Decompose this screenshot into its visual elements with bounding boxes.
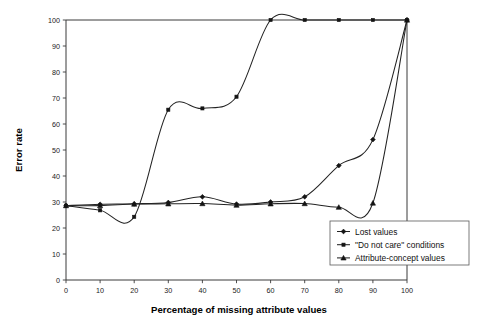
legend-item-label: Lost values: [355, 227, 397, 237]
marker-diamond: [371, 137, 376, 142]
x-tick-label: 70: [301, 286, 309, 295]
line-chart: 0102030405060708090100 01020304050607080…: [0, 0, 479, 325]
data-series-group: [63, 14, 409, 223]
y-tick-label: 0: [56, 276, 60, 285]
marker-square: [235, 95, 238, 98]
y-tick-label: 10: [52, 250, 60, 259]
x-tick-label: 30: [164, 286, 172, 295]
y-tick-label: 30: [52, 198, 60, 207]
series-0: [64, 18, 410, 208]
series-line: [66, 20, 407, 218]
chart-legend[interactable]: Lost values"Do not care" conditionsAttri…: [330, 221, 469, 265]
x-tick-label: 80: [335, 286, 343, 295]
series-line: [66, 20, 407, 206]
x-tick-label: 90: [369, 286, 377, 295]
y-tick-label: 60: [52, 120, 60, 129]
y-tick-label: 40: [52, 172, 60, 181]
marker-diamond: [200, 194, 205, 199]
x-tick-label: 60: [267, 286, 275, 295]
marker-square: [269, 18, 272, 21]
y-tick-label: 50: [52, 146, 60, 155]
series-line: [66, 14, 407, 223]
marker-square: [201, 107, 204, 110]
marker-square: [371, 18, 374, 21]
chart-container: 0102030405060708090100 01020304050607080…: [0, 0, 479, 325]
y-tick-label: 20: [52, 224, 60, 233]
marker-square: [133, 215, 136, 218]
x-tick-label: 10: [96, 286, 104, 295]
x-tick-label: 100: [401, 286, 413, 295]
x-tick-label: 50: [233, 286, 241, 295]
marker-diamond: [302, 194, 307, 199]
marker-square: [337, 18, 340, 21]
marker-square: [167, 108, 170, 111]
marker-square: [303, 18, 306, 21]
y-axis-tick-labels: 0102030405060708090100: [48, 16, 60, 285]
y-axis-title: Error rate: [13, 128, 24, 172]
x-tick-label: 40: [198, 286, 206, 295]
marker-square: [342, 243, 345, 246]
y-tick-label: 70: [52, 94, 60, 103]
legend-item-label: Attribute-concept values: [355, 253, 445, 263]
marker-square: [99, 209, 102, 212]
x-tick-label: 20: [130, 286, 138, 295]
x-tick-label: 0: [64, 286, 68, 295]
y-tick-label: 100: [48, 16, 60, 25]
legend-item-label: "Do not care" conditions: [355, 240, 444, 250]
marker-triangle: [370, 201, 375, 206]
y-tick-label: 90: [52, 42, 60, 51]
series-2: [63, 18, 409, 219]
y-tick-label: 80: [52, 68, 60, 77]
series-1: [64, 14, 408, 223]
x-axis-title: Percentage of missing attribute values: [151, 304, 327, 315]
x-axis-tick-labels: 0102030405060708090100: [64, 286, 413, 295]
